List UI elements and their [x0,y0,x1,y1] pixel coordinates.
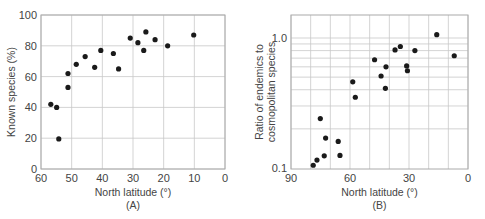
x-tick-label: 50 [66,172,78,184]
data-point [311,163,316,168]
data-point [135,40,140,45]
x-tick-label: 0 [222,172,228,184]
y-axis-label-line1: Ratio of endemics to [253,44,265,140]
data-point [141,48,146,53]
data-point [152,37,157,42]
y-tick-label: 100 [19,9,37,21]
x-tick-label: 40 [96,172,108,184]
y-axis-label-line2: cosmopolitan species [265,42,277,142]
data-point [111,51,116,56]
data-point [318,116,323,121]
data-point [165,43,170,48]
data-point [350,79,355,84]
chart-panel-b: 90603000.11.0North latitude (°)(B)Ratio … [253,15,471,211]
data-point [128,36,133,41]
chart-panel-a: 6050403020100020406080100North latitude … [5,9,228,211]
figure-two-panel-scatter: 6050403020100020406080100North latitude … [0,0,485,219]
data-point [353,95,358,100]
y-tick-label: 60 [25,71,37,83]
data-point [65,71,70,76]
x-axis-label: North latitude (°) [95,186,172,198]
data-point [74,62,79,67]
y-tick-label: 0 [31,163,37,175]
data-point [383,86,388,91]
data-point [98,48,103,53]
data-point [143,29,148,34]
x-tick-label: 30 [127,172,139,184]
y-axis-label: Known species (%) [5,47,17,137]
data-point [83,54,88,59]
x-tick-label: 20 [158,172,170,184]
data-point [372,57,377,62]
x-tick-label: 10 [188,172,200,184]
data-point [337,153,342,158]
data-point [392,47,397,52]
data-point [56,136,61,141]
data-point [323,135,328,140]
x-tick-label: 60 [344,172,356,184]
data-point [92,65,97,70]
y-tick-label: 20 [25,132,37,144]
data-point [383,64,388,69]
data-point [412,48,417,53]
panel-label: (B) [373,199,387,211]
y-tick-label: 0.1 [272,162,287,174]
data-point [378,73,383,78]
data-point [434,32,439,37]
data-point [54,105,59,110]
y-tick-label: 80 [25,40,37,52]
data-point [452,53,457,58]
x-tick-label: 0 [465,172,471,184]
data-point [336,139,341,144]
x-axis-label: North latitude (°) [341,186,418,198]
data-point [405,68,410,73]
data-point [65,85,70,90]
data-point [322,153,327,158]
data-point [404,63,409,68]
data-point [191,32,196,37]
data-point [116,66,121,71]
x-tick-label: 30 [403,172,415,184]
data-point [398,44,403,49]
y-tick-label: 40 [25,101,37,113]
data-point [48,102,53,107]
data-point [314,158,319,163]
panel-label: (A) [126,199,140,211]
